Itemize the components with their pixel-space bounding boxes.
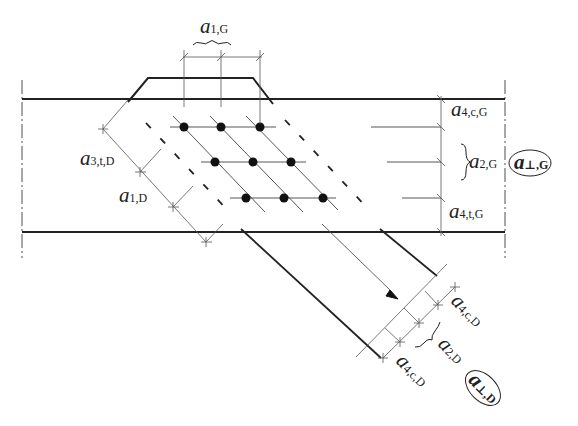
label-a4cD-top: a4,c,D: [446, 289, 489, 332]
label-a4tG: a4,t,G: [449, 199, 484, 223]
label-a1G: a1,G: [200, 14, 229, 38]
label-a1D: a1,D: [119, 183, 148, 207]
diagonal-member: [241, 224, 437, 358]
gusset-plate: [128, 78, 273, 104]
chord-member: [22, 80, 505, 258]
dimension-left-chain: [98, 100, 223, 247]
svg-text:a⊥,G: a⊥,G: [514, 150, 548, 174]
arrow-head-icon: [386, 290, 398, 299]
label-a2D: a2,D: [433, 332, 470, 369]
edge-dash-lines: [146, 120, 371, 215]
label-a4cG: a4,c,G: [451, 97, 488, 121]
label-aperpG: a⊥,G: [509, 150, 551, 176]
brace-icon: [193, 41, 231, 46]
fastener-dots: [180, 123, 328, 203]
connection-diagram: a1,G a4,c,G a2,G a⊥,G a4,t,G a3,t,D a1,D…: [0, 0, 578, 426]
label-a2G: a2,G: [469, 149, 498, 173]
label-a3tD: a3,t,D: [80, 146, 115, 170]
label-a4cD-bottom: a4,c,D: [391, 349, 434, 392]
dimension-a1G: [180, 41, 264, 125]
label-aperpD: a⊥,D: [459, 364, 507, 412]
